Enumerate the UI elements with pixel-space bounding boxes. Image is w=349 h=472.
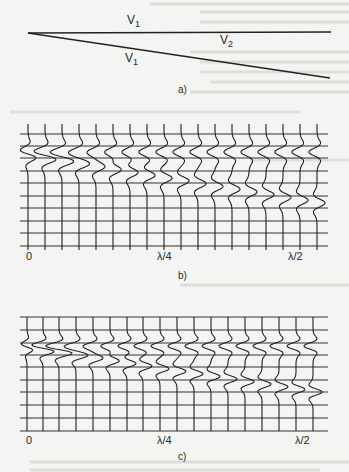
velocity-symbol: V (125, 51, 133, 65)
seismic-trace (275, 124, 291, 250)
seismic-trace (46, 317, 72, 431)
seismic-trace (105, 124, 122, 250)
axis-label-zero-b: 0 (26, 250, 32, 262)
seismic-trace (270, 317, 288, 431)
axis-label-quarter-wavelength-b: λ/4 (157, 250, 172, 262)
seismic-trace (20, 124, 36, 250)
label-upper-velocity: V1 (127, 13, 140, 29)
seismic-trace (309, 124, 325, 250)
seismic-trace (83, 317, 103, 431)
velocity-subscript: 1 (133, 57, 138, 67)
seismic-trace (253, 317, 271, 431)
axis-label-quarter-wavelength-c: λ/4 (157, 434, 172, 446)
seismic-trace (190, 124, 206, 250)
top-interface-line (28, 32, 331, 33)
seismic-trace (32, 317, 54, 431)
seismic-trace (122, 124, 138, 250)
panel-c-synthetic-seismogram (20, 317, 328, 431)
seismic-trace (139, 124, 155, 250)
seismic-trace (224, 124, 240, 250)
seismic-trace (287, 317, 305, 431)
seismic-trace (21, 317, 32, 431)
seismic-trace (69, 124, 90, 250)
velocity-symbol: V (127, 13, 135, 27)
seismic-trace (34, 124, 56, 250)
seismic-trace (156, 124, 172, 250)
seismic-trace (207, 124, 223, 250)
seismic-trace (185, 317, 203, 431)
caption-c: c) (178, 451, 186, 462)
seismic-trace (292, 124, 308, 250)
panel-b-synthetic-seismogram (20, 124, 328, 250)
seismic-trace (151, 317, 169, 431)
seismic-trace (173, 124, 189, 250)
seismic-trace (101, 317, 119, 431)
seismic-trace (258, 124, 274, 250)
seismic-trace (219, 317, 237, 431)
seismic-trace (236, 317, 254, 431)
axis-label-half-wavelength-b: λ/2 (288, 250, 303, 262)
seismic-trace (168, 317, 186, 431)
seismic-trace (118, 317, 136, 431)
seismic-trace (202, 317, 220, 431)
label-wedge-velocity: V2 (220, 33, 233, 49)
axis-label-zero-c: 0 (26, 434, 32, 446)
velocity-symbol: V (220, 33, 228, 47)
velocity-subscript: 2 (228, 39, 233, 49)
seismic-trace (50, 124, 73, 250)
seismic-trace (304, 317, 322, 431)
seismic-trace (241, 124, 257, 250)
caption-a: a) (178, 84, 187, 95)
seismic-trace (87, 124, 105, 250)
panel-a-wedge-model (28, 32, 331, 78)
seismic-wedge-figure (0, 0, 349, 472)
bottom-interface-line (28, 33, 330, 78)
seismic-trace (64, 317, 88, 431)
axis-label-half-wavelength-c: λ/2 (295, 434, 310, 446)
caption-b: b) (178, 270, 187, 281)
velocity-subscript: 1 (135, 19, 140, 29)
label-lower-velocity: V1 (125, 51, 138, 67)
seismic-trace (134, 317, 152, 431)
